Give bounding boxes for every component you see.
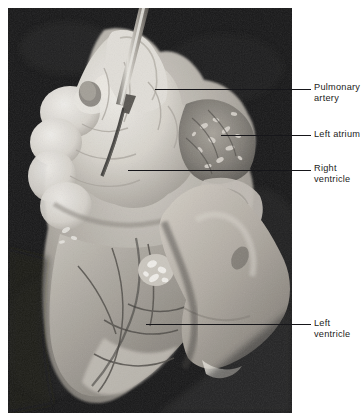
leader-line-pulmonary-artery bbox=[155, 89, 311, 90]
label-left-ventricle: Left ventricle bbox=[314, 318, 350, 340]
leader-line-left-atrium bbox=[221, 135, 311, 136]
anatomy-figure: Pulmonary artery Left atrium Right ventr… bbox=[0, 0, 362, 413]
photo-canvas bbox=[8, 8, 292, 413]
label-right-ventricle: Right ventricle bbox=[314, 163, 350, 185]
leader-line-left-ventricle bbox=[146, 324, 311, 325]
heart-specimen-photograph bbox=[8, 8, 292, 413]
leader-line-right-ventricle bbox=[128, 170, 311, 171]
label-left-atrium: Left atrium bbox=[314, 129, 360, 140]
label-pulmonary-artery: Pulmonary artery bbox=[314, 82, 360, 104]
